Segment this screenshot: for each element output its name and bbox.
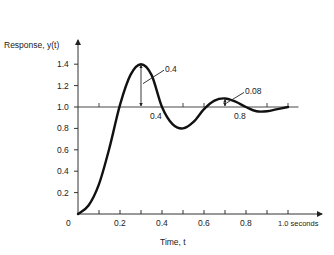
y-tick-label: 1.0 <box>57 102 69 112</box>
reference-line-group <box>78 103 299 107</box>
y-axis-title: Response, y(t) <box>4 40 59 50</box>
x-ticks: 0.20.40.60.81.0 seconds <box>99 210 319 228</box>
x-tick-label: 0.6 <box>198 218 210 228</box>
y-tick-label: 1.4 <box>57 59 69 69</box>
y-tick-label: 0.6 <box>57 145 69 155</box>
time-annotation-label: 0.8 <box>234 111 246 121</box>
step-response-chart: Response, y(t) Time, t 0 0.20.40.60.81.0… <box>0 0 334 255</box>
amplitude-label: 0.4 <box>165 64 177 74</box>
y-tick-label: 1.2 <box>57 81 69 91</box>
x-tick-label: 0.4 <box>156 218 168 228</box>
time-annotation-label: 0.4 <box>150 111 162 121</box>
x-tick-label: 0.8 <box>240 218 252 228</box>
y-ticks: 0.20.40.60.81.01.21.4 <box>57 59 78 197</box>
amplitude-label: 0.08 <box>245 86 262 96</box>
y-tick-label: 0.4 <box>57 166 69 176</box>
y-tick-label: 0.2 <box>57 188 69 198</box>
x-tick-label: 1.0 seconds <box>278 219 319 228</box>
x-tick-label: 0.2 <box>114 218 126 228</box>
origin-label: 0 <box>66 218 71 228</box>
x-axis-title: Time, t <box>160 237 186 247</box>
y-tick-label: 0.8 <box>57 123 69 133</box>
